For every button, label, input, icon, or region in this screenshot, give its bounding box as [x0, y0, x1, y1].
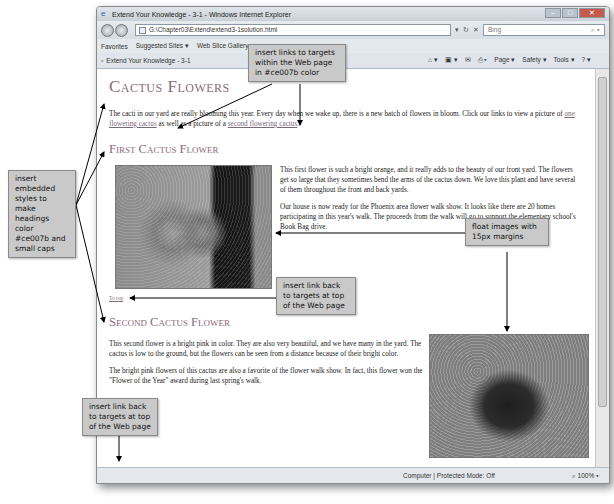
search-placeholder: Bing [488, 25, 501, 35]
second-cactus-heading: Second Cactus Flower [109, 315, 230, 330]
intro-text: The cacti in our yard are really bloomin… [109, 110, 564, 118]
help-icon[interactable]: ? ▾ [582, 56, 591, 64]
scrollbar-thumb[interactable] [598, 77, 607, 407]
page-content: Cactus Flowers The cacti in our yard are… [97, 69, 595, 469]
suggested-sites-link[interactable]: Suggested Sites ▾ [136, 42, 189, 50]
second-cactus-image [429, 334, 589, 458]
close-button[interactable]: ✕ [579, 8, 605, 18]
callout-headings: insert embedded styles to make headings … [8, 170, 76, 258]
refresh-icon[interactable]: ↻ [463, 26, 469, 34]
favorites-bar: Favorites Suggested Sites ▾ Web Slice Ga… [97, 39, 609, 53]
callout-float: float images with 15px margins [465, 218, 549, 246]
first-cactus-image [115, 165, 272, 289]
page-title: Cactus Flowers [109, 77, 230, 97]
address-text: G:\Chapter03\Extend\extend3-1solution.ht… [149, 25, 277, 35]
mail-icon[interactable]: ✉ [465, 56, 471, 64]
address-toolbar: G:\Chapter03\Extend\extend3-1solution.ht… [97, 21, 609, 39]
zoom-level[interactable]: ⌕ 100% ▾ [572, 472, 599, 480]
callout-link-back-1: insert link back to targets at top of th… [276, 277, 356, 315]
vertical-scrollbar[interactable] [595, 69, 609, 469]
print-icon[interactable]: ⎙ ▾ [478, 56, 488, 64]
intro-text: as well as a picture of a [157, 120, 228, 128]
first-paragraph-1: This first flower is such a bright orang… [280, 165, 580, 195]
search-icon[interactable]: ⌕ ▾ [591, 25, 600, 35]
second-paragraph-1: This second flower is a bright pink in c… [109, 339, 427, 359]
security-zone: Computer | Protected Mode: Off [403, 472, 495, 479]
safety-menu[interactable]: Safety ▾ [522, 56, 546, 64]
address-bar[interactable]: G:\Chapter03\Extend\extend3-1solution.ht… [135, 24, 451, 36]
dropdown-icon[interactable]: ▾ [455, 26, 459, 34]
feeds-icon[interactable]: ▣ ▾ [445, 56, 458, 64]
page-menu[interactable]: Page ▾ [494, 56, 515, 64]
maximize-button[interactable]: □ [562, 8, 578, 18]
tab-icon: ▫ [101, 57, 103, 64]
stop-icon[interactable]: ✕ [473, 26, 479, 34]
tab-bar: ▫ Extend Your Knowledge - 3-1 ⌂ ▾ ▣ ▾ ✉ … [97, 53, 609, 69]
link-second-cactus[interactable]: second flowering cactus [228, 120, 297, 128]
tools-menu[interactable]: Tools ▾ [554, 56, 575, 64]
command-bar: ⌂ ▾ ▣ ▾ ✉ ⎙ ▾ Page ▾ Safety ▾ Tools ▾ ? … [428, 56, 591, 64]
ie-logo-icon: e [101, 10, 109, 18]
intro-text: . [297, 120, 299, 128]
page-icon [139, 27, 146, 34]
tab-extend-your-knowledge[interactable]: ▫ Extend Your Knowledge - 3-1 [101, 57, 191, 64]
tab-label: Extend Your Knowledge - 3-1 [106, 57, 190, 64]
window-title: Extend Your Knowledge - 3-1 - Windows In… [112, 11, 291, 18]
home-icon[interactable]: ⌂ ▾ [428, 56, 438, 64]
callout-link-back-2: insert link back to targets at top of th… [82, 398, 158, 436]
intro-paragraph: The cacti in our yard are really bloomin… [109, 109, 589, 129]
forward-button[interactable] [115, 24, 128, 37]
back-button[interactable] [101, 24, 114, 37]
title-bar: e Extend Your Knowledge - 3-1 - Windows … [97, 7, 609, 21]
search-input[interactable]: Bing ⌕ ▾ [483, 24, 605, 36]
to-top-link[interactable]: To top [109, 295, 123, 301]
first-cactus-heading: First Cactus Flower [109, 142, 219, 157]
callout-links: insert links to targets within the Web p… [248, 44, 346, 82]
minimize-button[interactable]: – [545, 8, 561, 18]
web-slice-link[interactable]: Web Slice Gallery ▾ [197, 42, 254, 50]
second-paragraph-2: The bright pink flowers of this cactus a… [109, 366, 427, 386]
zoom-value: 100% [578, 472, 595, 479]
status-bar: Computer | Protected Mode: Off ⌕ 100% ▾ [97, 467, 609, 483]
second-cactus-text: This second flower is a bright pink in c… [109, 339, 427, 393]
favorites-button[interactable]: Favorites [101, 43, 128, 50]
